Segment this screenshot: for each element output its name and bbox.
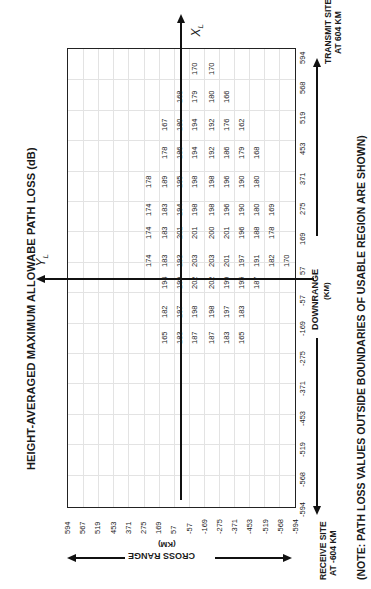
path-loss-value: 182 (267, 254, 276, 267)
path-loss-value: 168 (252, 146, 261, 159)
path-loss-value: 198 (190, 203, 199, 216)
downrange-tick-label: -371 (298, 381, 307, 396)
path-loss-value: 189 (160, 175, 169, 188)
path-loss-value: 203 (207, 254, 216, 267)
crossrange-tick-label: 169 (154, 521, 163, 534)
crossrange-tick-label: -57 (185, 523, 194, 534)
crossrange-tick-label: -275 (215, 519, 224, 534)
crossrange-tick-label: -371 (230, 519, 239, 534)
path-loss-value: 195 (175, 175, 184, 188)
path-loss-value: 187 (252, 276, 261, 289)
downrange-tick-label: -594 (298, 502, 307, 517)
path-loss-value: 180 (175, 118, 184, 131)
path-loss-value: 183 (222, 331, 231, 344)
yl-axis-arrow-icon (36, 275, 45, 283)
xl-axis-letter: X (189, 28, 203, 36)
path-loss-value: 183 (160, 254, 169, 267)
crossrange-tick-label: -453 (245, 519, 254, 534)
path-loss-value: 188 (252, 226, 261, 239)
path-loss-value: 192 (207, 118, 216, 131)
path-loss-value: 194 (160, 276, 169, 289)
path-loss-value: 197 (237, 254, 246, 267)
path-loss-value: 183 (175, 331, 184, 344)
path-loss-value: 191 (252, 254, 261, 267)
path-loss-value: 178 (160, 146, 169, 159)
downrange-tick-label: -275 (298, 351, 307, 366)
downrange-up-arrow-icon (313, 58, 321, 67)
path-loss-value: 195 (237, 276, 246, 289)
downrange-arrow-down-line (316, 338, 318, 508)
downrange-tick-label: 568 (298, 82, 307, 95)
downrange-unit: (KM) (322, 282, 331, 300)
path-loss-value: 187 (207, 331, 216, 344)
path-loss-value: 193 (175, 254, 184, 267)
path-loss-value: 196 (237, 226, 246, 239)
transmit-site-line2: AT 604 KM (333, 0, 343, 64)
path-loss-value: 182 (160, 305, 169, 318)
path-loss-value: 180 (207, 90, 216, 103)
crossrange-label: CROSS RANGE (128, 551, 195, 561)
path-loss-value: 170 (190, 62, 199, 75)
receive-site-line2: AT -604 KM (328, 521, 338, 580)
path-loss-value: 178 (144, 175, 153, 188)
path-loss-value: 198 (190, 305, 199, 318)
chart-title: HEIGHT-AVERAGED MAXIMUM ALLOWABE PATH LO… (25, 147, 37, 470)
path-loss-value: 180 (252, 203, 261, 216)
receive-site-line1: RECEIVE SITE (318, 521, 328, 580)
crossrange-tick-label: -169 (200, 519, 209, 534)
path-loss-value: 170 (282, 254, 291, 267)
downrange-tick-label: 371 (298, 172, 307, 185)
path-loss-value: 202 (207, 276, 216, 289)
downrange-tick-label: 519 (298, 112, 307, 125)
downrange-tick-label: -519 (298, 442, 307, 457)
path-loss-value: 183 (237, 305, 246, 318)
transmit-site-line1: TRANSMIT SITE (323, 0, 333, 64)
path-loss-value: 199 (222, 276, 231, 289)
path-loss-value: 194 (190, 146, 199, 159)
downrange-tick-label: 57 (298, 267, 307, 275)
path-loss-value: 196 (222, 175, 231, 188)
path-loss-value: 166 (222, 90, 231, 103)
downrange-arrow-up-line (316, 66, 318, 236)
crossrange-tick-label: 519 (93, 521, 102, 534)
path-loss-value: 165 (237, 331, 246, 344)
path-loss-value: 198 (190, 175, 199, 188)
path-loss-value: 183 (160, 226, 169, 239)
path-loss-value: 203 (190, 254, 199, 267)
path-loss-value: 186 (222, 146, 231, 159)
path-loss-value: 202 (190, 276, 199, 289)
path-loss-value: 194 (190, 118, 199, 131)
downrange-tick-label: 453 (298, 142, 307, 155)
downrange-down-arrow-icon (313, 506, 321, 515)
path-loss-value: 168 (175, 90, 184, 103)
downrange-tick-label: -57 (298, 295, 307, 306)
path-loss-value: 198 (207, 305, 216, 318)
downrange-tick-label: 169 (298, 233, 307, 246)
path-loss-value: 179 (190, 90, 199, 103)
crossrange-arrow-left-line (75, 557, 125, 559)
crossrange-tick-label: 57 (169, 526, 178, 534)
path-loss-value: 178 (267, 226, 276, 239)
path-loss-value: 187 (190, 331, 199, 344)
crossrange-tick-label: 371 (124, 521, 133, 534)
crossrange-tick-label: -519 (261, 519, 270, 534)
path-loss-value: 183 (160, 203, 169, 216)
path-loss-value: 199 (175, 276, 184, 289)
crossrange-tick-label: -594 (291, 519, 300, 534)
crossrange-tick-label: 275 (139, 521, 148, 534)
chart-note: (NOTE: PATH LOSS VALUES OUTSIDE BOUNDARI… (355, 135, 367, 580)
path-loss-value: 169 (267, 203, 276, 216)
downrange-tick-label: 594 (298, 51, 307, 64)
crossrange-left-arrow-icon (67, 554, 76, 562)
crossrange-unit: (KM) (158, 540, 176, 549)
path-loss-value: 198 (207, 203, 216, 216)
path-loss-value: 192 (207, 146, 216, 159)
path-loss-value: 190 (237, 175, 246, 188)
crossrange-arrow-right-line (215, 557, 285, 559)
path-loss-value: 167 (160, 118, 169, 131)
yl-axis-label: YL (34, 254, 50, 266)
path-loss-value: 198 (207, 175, 216, 188)
path-loss-value: 174 (144, 254, 153, 267)
path-loss-value: 201 (190, 226, 199, 239)
path-loss-value: 170 (207, 62, 216, 75)
